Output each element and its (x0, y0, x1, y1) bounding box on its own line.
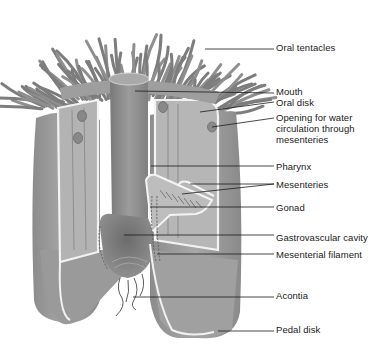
anemone-diagram: Oral tentaclesMouthOral diskOpening for … (0, 0, 384, 358)
label-mesenteries: Mesenteries (276, 179, 328, 190)
label-text: Pedal disk (276, 324, 320, 335)
label-opening-water: Opening for watercirculation throughmese… (276, 112, 355, 145)
label-oral-tentacles: Oral tentacles (276, 42, 335, 53)
label-text: circulation through (276, 123, 355, 134)
label-mouth: Mouth (276, 86, 303, 97)
label-text: Pharynx (276, 161, 311, 172)
label-text: Oral disk (276, 97, 314, 108)
body-column (32, 73, 241, 338)
label-oral-disk: Oral disk (276, 97, 314, 108)
label-text: mesenteries (276, 134, 355, 145)
label-pedal-disk: Pedal disk (276, 324, 320, 335)
label-text: Mesenteries (276, 179, 328, 190)
label-gonad: Gonad (276, 202, 305, 213)
label-text: Gastrovascular cavity (276, 232, 368, 243)
label-text: Opening for water (276, 112, 355, 123)
label-text: Mouth (276, 86, 303, 97)
label-text: Oral tentacles (276, 42, 335, 53)
label-mesenterial-filament: Mesenterial filament (276, 249, 362, 260)
label-text: Gonad (276, 202, 305, 213)
label-text: Mesenterial filament (276, 249, 362, 260)
label-pharynx: Pharynx (276, 161, 311, 172)
label-gastrovascular-cavity: Gastrovascular cavity (276, 232, 368, 243)
label-acontia: Acontia (276, 290, 308, 301)
label-text: Acontia (276, 290, 308, 301)
